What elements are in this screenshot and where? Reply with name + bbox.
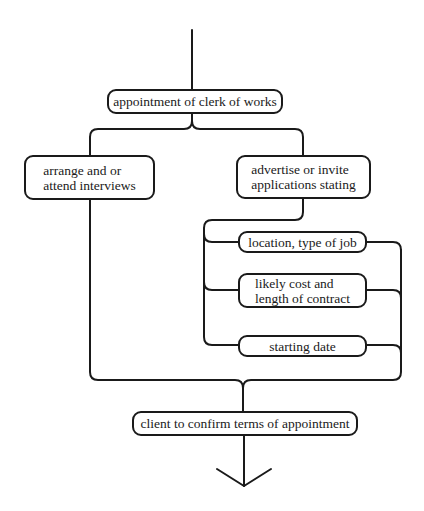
- split-brace-right: [192, 121, 303, 155]
- from-cost: [366, 290, 401, 298]
- node-appointment: appointment of clerk of works: [107, 89, 283, 114]
- node-starting-label: starting date: [269, 339, 335, 354]
- node-confirm-label: client to confirm terms of appointment: [141, 416, 350, 431]
- node-advertise-line1: advertise or invite: [251, 162, 356, 177]
- node-starting: starting date: [238, 335, 367, 357]
- to-cost: [204, 282, 238, 290]
- node-appointment-label: appointment of clerk of works: [113, 94, 276, 109]
- node-cost: likely cost and length of contract: [238, 273, 367, 308]
- to-location: [204, 234, 238, 242]
- node-cost-line2: length of contract: [255, 291, 350, 306]
- node-interviews-line2: attend interviews: [43, 178, 136, 193]
- node-interviews: arrange and or attend interviews: [24, 155, 155, 200]
- node-interviews-line1: arrange and or: [43, 163, 136, 178]
- split-brace: [90, 113, 192, 155]
- node-advertise-line2: applications stating: [251, 177, 356, 192]
- advertise-subbrace: [204, 198, 303, 345]
- node-location-label: location, type of job: [248, 235, 357, 250]
- node-advertise: advertise or invite applications stating: [236, 155, 371, 199]
- interviews-connector: [90, 199, 243, 411]
- from-location: [366, 242, 401, 250]
- right-collector: [243, 250, 401, 388]
- from-starting: [366, 345, 401, 353]
- node-location: location, type of job: [238, 231, 367, 253]
- node-confirm: client to confirm terms of appointment: [132, 411, 358, 436]
- node-cost-line1: likely cost and: [255, 276, 350, 291]
